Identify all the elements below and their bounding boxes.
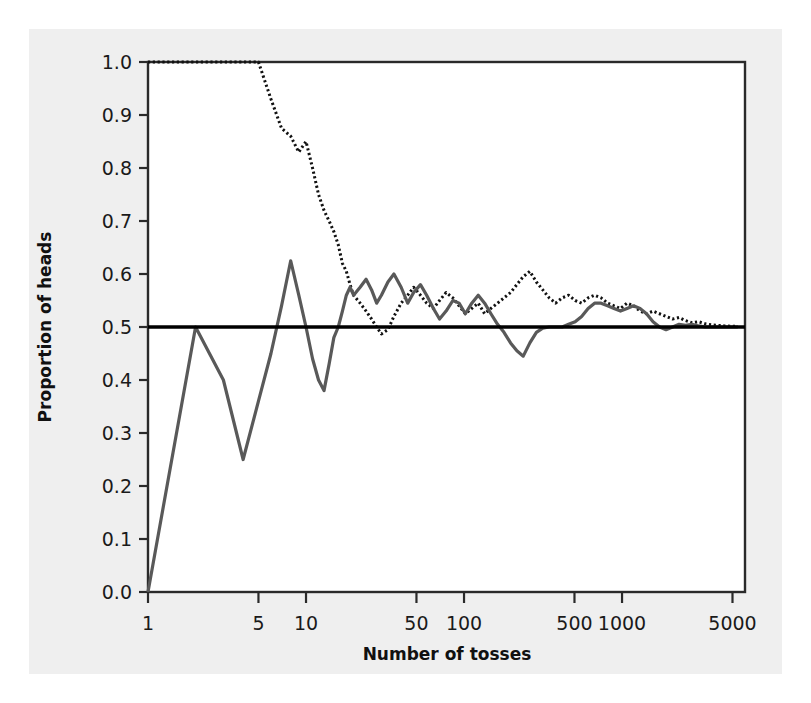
y-tick-label: 0.0 xyxy=(102,581,132,603)
y-tick-label: 0.1 xyxy=(102,528,132,550)
x-tick-label: 100 xyxy=(446,612,482,634)
x-axis-title: Number of tosses xyxy=(363,644,532,664)
y-tick-label: 0.7 xyxy=(102,210,132,232)
y-tick-label: 0.8 xyxy=(102,157,132,179)
y-tick-label: 1.0 xyxy=(102,51,132,73)
figure-panel: 0.00.10.20.30.40.50.60.70.80.91.0 151050… xyxy=(29,29,782,674)
y-tick-label: 0.2 xyxy=(102,475,132,497)
x-tick-label: 5 xyxy=(252,612,264,634)
x-axis-tick-labels: 15105010050010005000 xyxy=(142,612,757,634)
y-axis-title: Proportion of heads xyxy=(35,232,55,423)
y-tick-label: 0.6 xyxy=(102,263,132,285)
x-tick-label: 5000 xyxy=(708,612,756,634)
x-tick-label: 10 xyxy=(294,612,318,634)
x-tick-label: 50 xyxy=(404,612,428,634)
y-tick-label: 0.4 xyxy=(102,369,132,391)
x-tick-label: 1000 xyxy=(598,612,646,634)
y-axis-tick-labels: 0.00.10.20.30.40.50.60.70.80.91.0 xyxy=(102,51,132,603)
y-tick-label: 0.3 xyxy=(102,422,132,444)
y-tick-label: 0.5 xyxy=(102,316,132,338)
x-tick-label: 500 xyxy=(556,612,592,634)
coin-toss-convergence-chart: 0.00.10.20.30.40.50.60.70.80.91.0 151050… xyxy=(29,29,782,674)
y-axis-ticks xyxy=(139,62,148,592)
y-tick-label: 0.9 xyxy=(102,104,132,126)
x-tick-label: 1 xyxy=(142,612,154,634)
x-axis-ticks xyxy=(148,592,732,603)
